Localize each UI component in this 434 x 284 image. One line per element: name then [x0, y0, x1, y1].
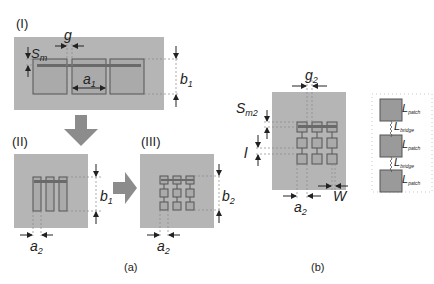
- stage-3-panel: (III) a2 b2: [140, 134, 235, 256]
- lpatch-label-1: Lpatch: [402, 102, 421, 115]
- caption-b: (b): [311, 261, 324, 273]
- lbridge-label-2: Lbridge: [394, 156, 414, 169]
- lpatch-label-2: Lpatch: [402, 138, 421, 151]
- g2-label: g2: [305, 67, 318, 85]
- down-arrow-icon: [64, 115, 98, 146]
- feed-strip: [298, 125, 337, 128]
- equivalent-circuit: Lpatch Lbridge Lpatch Lbridge Lpatch: [372, 94, 432, 192]
- patch-inductor: [380, 170, 402, 192]
- feed-strip: [37, 64, 141, 67]
- panel-b: g2 Sm2 l a2 W: [236, 67, 348, 217]
- b1-label-2: b1: [100, 188, 113, 206]
- stage-2-label: (II): [12, 134, 28, 149]
- patch-grid: [160, 176, 194, 210]
- patch-inductor: [380, 135, 402, 157]
- stage-1-panel: (I) g Sm a1 b1: [14, 16, 193, 110]
- feed-strip: [34, 180, 67, 183]
- patch-grid: [297, 122, 337, 164]
- stage-1-label: (I): [16, 16, 28, 31]
- b1-label: b1: [180, 71, 193, 89]
- l-label: l: [244, 144, 248, 161]
- b2-label: b2: [222, 188, 235, 206]
- lbridge-label-1: Lbridge: [394, 120, 414, 133]
- a2-label-b: a2: [294, 199, 307, 217]
- patch-inductor: [380, 99, 402, 121]
- a2-label: a2: [30, 238, 43, 256]
- right-arrow-icon: [113, 172, 137, 204]
- sm2-label: Sm2: [236, 100, 258, 118]
- lpatch-label-3: Lpatch: [402, 173, 421, 186]
- w-label: W: [333, 188, 348, 204]
- g-label: g: [64, 27, 72, 43]
- antenna-diagram: (I) g Sm a1 b1 (II): [0, 0, 434, 284]
- caption-a: (a): [124, 261, 137, 273]
- a2-label-3: a2: [157, 238, 170, 256]
- stage-3-label: (III): [141, 134, 161, 149]
- stage-2-panel: (II) a2 b1: [12, 134, 113, 256]
- feed-strip: [161, 179, 194, 181]
